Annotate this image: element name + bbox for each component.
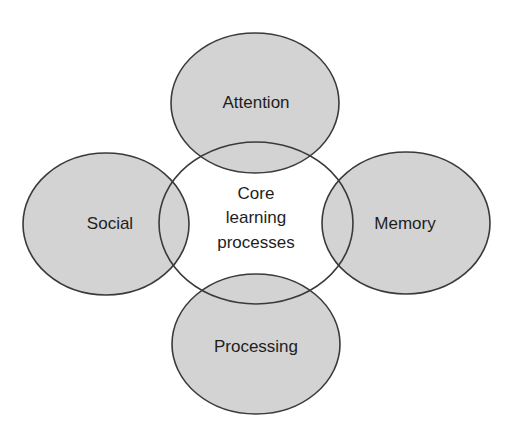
social-label: Social: [87, 214, 133, 233]
center-label-line-3: processes: [217, 233, 294, 252]
core-learning-diagram: Attention Social Memory Processing Core …: [0, 0, 510, 441]
attention-label: Attention: [222, 93, 289, 112]
center-label-line-1: Core: [238, 184, 275, 203]
memory-label: Memory: [374, 214, 436, 233]
center-label-line-2: learning: [226, 208, 287, 227]
processing-label: Processing: [214, 337, 298, 356]
